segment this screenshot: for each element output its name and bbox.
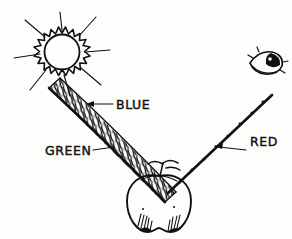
label-green: GREEN [45, 143, 92, 158]
label-red: RED [250, 134, 278, 149]
label-blue: BLUE [116, 97, 150, 112]
light-reflection-diagram: BLUE GREEN RED [0, 0, 292, 239]
illustration-canvas: BLUE GREEN RED [0, 0, 292, 239]
eye-highlight [268, 57, 272, 61]
